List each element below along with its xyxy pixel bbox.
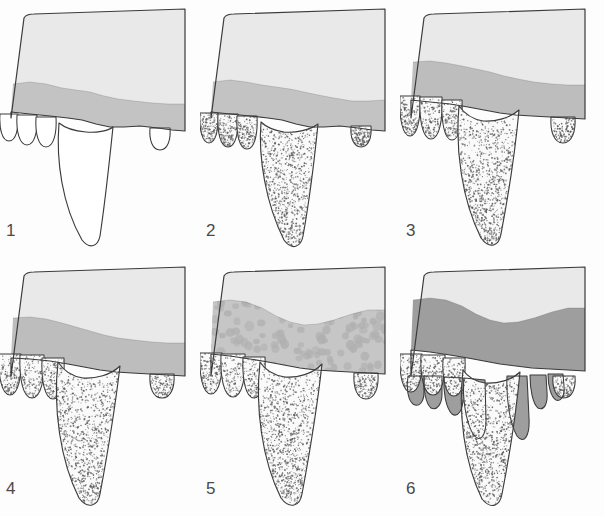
panel-3	[400, 0, 600, 258]
teeth-group	[0, 354, 175, 505]
panel-2	[200, 0, 400, 258]
panel-number-1: 1	[6, 222, 15, 239]
panel-1	[0, 0, 200, 258]
small-tooth-right	[150, 128, 170, 150]
teeth-group	[200, 352, 379, 505]
large-canine-tooth	[58, 123, 113, 246]
panel-number-2: 2	[206, 222, 215, 239]
panel-number-4: 4	[6, 480, 15, 497]
panel-4	[0, 258, 200, 516]
small-tooth	[221, 354, 245, 397]
panel-number-6: 6	[406, 480, 415, 497]
teeth-group	[400, 96, 576, 247]
panel-number-5: 5	[206, 480, 215, 497]
large-canine-tooth	[458, 106, 519, 245]
panel-5	[200, 258, 400, 516]
teeth-group	[0, 114, 170, 246]
panel-number-3: 3	[406, 222, 415, 239]
panel-6	[400, 258, 600, 516]
figure-six-stage-tooth-sequence: 123456	[0, 0, 604, 516]
small-tooth	[17, 115, 37, 145]
small-tooth	[0, 114, 18, 141]
small-tooth	[36, 117, 56, 147]
